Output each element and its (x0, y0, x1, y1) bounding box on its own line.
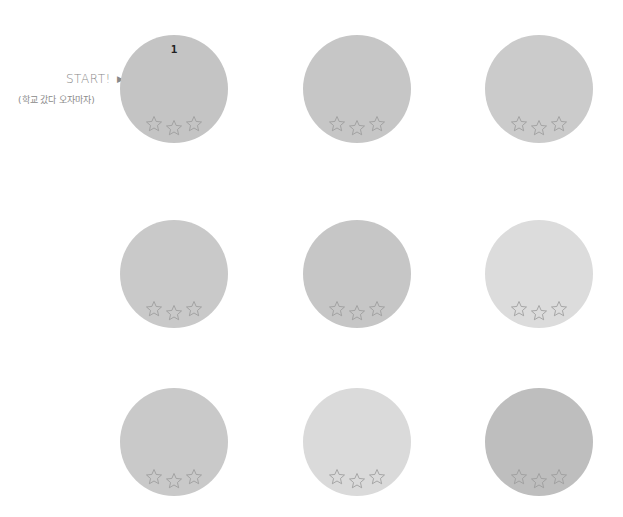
stage-number: 1 (120, 43, 228, 56)
stage-5-button[interactable] (303, 220, 411, 328)
star-outline-icon (510, 115, 528, 133)
star-outline-icon (368, 468, 386, 486)
star-outline-icon (530, 472, 548, 490)
star-outline-icon (145, 300, 163, 318)
star-rating (303, 468, 411, 486)
star-rating (303, 115, 411, 133)
star-outline-icon (185, 115, 203, 133)
star-outline-icon (348, 472, 366, 490)
star-rating (485, 115, 593, 133)
star-rating (120, 300, 228, 318)
star-outline-icon (348, 119, 366, 137)
start-label: START!▶ (66, 72, 124, 86)
stage-7-button[interactable] (120, 388, 228, 496)
star-outline-icon (510, 468, 528, 486)
star-outline-icon (165, 119, 183, 137)
star-rating (120, 115, 228, 133)
star-outline-icon (185, 300, 203, 318)
stage-3-button[interactable] (485, 35, 593, 143)
star-rating (485, 300, 593, 318)
star-outline-icon (368, 115, 386, 133)
star-outline-icon (368, 300, 386, 318)
star-outline-icon (348, 304, 366, 322)
start-subtitle: (학교 갔다 오자마자) (18, 93, 95, 106)
stage-4-button[interactable] (120, 220, 228, 328)
stage-1-button[interactable]: 1 (120, 35, 228, 143)
start-text: START! (66, 72, 111, 86)
star-outline-icon (165, 304, 183, 322)
stage-9-button[interactable] (485, 388, 593, 496)
star-outline-icon (145, 115, 163, 133)
star-outline-icon (510, 300, 528, 318)
star-outline-icon (165, 472, 183, 490)
star-outline-icon (530, 119, 548, 137)
star-outline-icon (145, 468, 163, 486)
star-rating (485, 468, 593, 486)
star-outline-icon (328, 468, 346, 486)
star-outline-icon (550, 115, 568, 133)
star-outline-icon (550, 468, 568, 486)
star-outline-icon (530, 304, 548, 322)
star-rating (120, 468, 228, 486)
star-outline-icon (328, 300, 346, 318)
stage-6-button[interactable] (485, 220, 593, 328)
stage-2-button[interactable] (303, 35, 411, 143)
star-outline-icon (328, 115, 346, 133)
star-rating (303, 300, 411, 318)
stage-8-button[interactable] (303, 388, 411, 496)
star-outline-icon (550, 300, 568, 318)
star-outline-icon (185, 468, 203, 486)
